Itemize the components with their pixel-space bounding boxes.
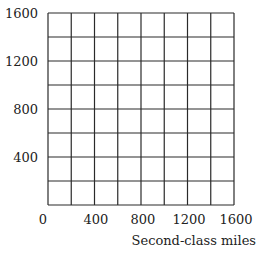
blank-grid-chart: 0 400 800 1200 1600 400 800 1200 1600 Se… — [0, 0, 267, 254]
y-tick-label: 400 — [13, 150, 38, 165]
x-tick-label: 400 — [84, 212, 109, 227]
x-tick-label: 1600 — [219, 212, 252, 227]
x-axis-tick-labels: 0 400 800 1200 1600 — [39, 212, 253, 227]
grid-lines — [48, 13, 234, 205]
x-axis-title: Second-class miles — [132, 233, 256, 248]
y-tick-label: 1200 — [5, 54, 38, 69]
y-tick-label: 800 — [13, 102, 38, 117]
x-tick-label: 0 — [39, 212, 47, 227]
y-axis-tick-labels: 400 800 1200 1600 — [5, 6, 38, 165]
x-tick-label: 800 — [131, 212, 156, 227]
x-tick-label: 1200 — [172, 212, 205, 227]
y-tick-label: 1600 — [5, 6, 38, 21]
